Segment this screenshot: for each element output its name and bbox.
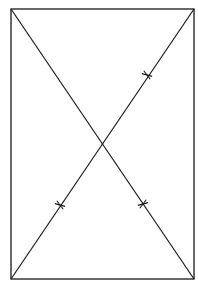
- tick-mark: [57, 201, 63, 210]
- diagram-canvas: [0, 0, 198, 293]
- rectangle-diagonals-figure: [0, 0, 198, 293]
